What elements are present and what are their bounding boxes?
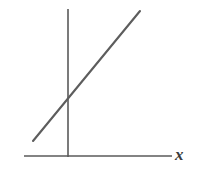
figure-background [0,0,202,177]
figure-container: x [0,0,202,177]
x-axis-label: x [175,146,184,163]
line-graph-svg [0,0,202,177]
